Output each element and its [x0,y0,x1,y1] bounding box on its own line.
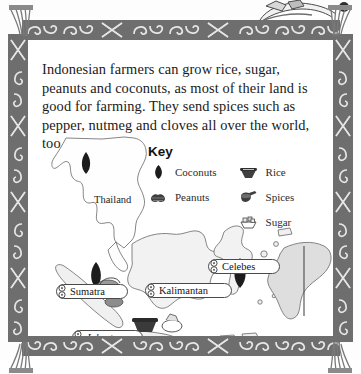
corner-tassel-top-right [321,4,355,44]
scroll-banner: Sumatra [56,284,128,299]
frame-band-bottom [22,336,340,356]
map-scroll-label-sumatra: Sumatra [56,284,128,299]
corner-tassel-bottom-left [6,334,40,374]
decorative-frame: Indonesian farmers can grow rice, sugar,… [8,20,353,356]
spices-mortar-icon [239,189,259,205]
key-item-coconuts: Coconuts [148,164,217,180]
key-item-rice: Rice [239,164,295,180]
coconut-icon [148,164,168,180]
scroll-banner: Celebes [208,259,280,274]
scroll-curl-icon [208,259,220,274]
key-label-rice: Rice [266,166,286,178]
scroll-label-text: Kalimantan [159,285,208,296]
content-area: Indonesian farmers can grow rice, sugar,… [28,40,333,336]
scroll-banner: Jakarta [72,330,143,336]
map-scroll-label-kalimantan: Kalimantan [145,283,232,298]
scroll-label-text: Sumatra [70,286,105,297]
key-column-left: Coconuts Peanuts [148,164,217,230]
scroll-label-text: Jakarta [86,332,118,336]
scroll-curl-icon [145,283,157,298]
key-title: Key [148,144,333,159]
frame-band-left [8,34,28,342]
key-item-spices: Spices [239,189,295,205]
scroll-curl-icon [72,330,84,336]
map-label-text: Thailand [94,194,131,205]
scroll-label-text: Celebes [222,261,255,272]
map-key: Key Coconuts [148,144,333,230]
key-item-peanuts: Peanuts [148,189,217,205]
key-column-right: Rice Spices [239,164,295,230]
key-label-peanuts: Peanuts [175,191,209,203]
key-item-sugar: Sugar [239,214,295,230]
frame-band-top [22,20,340,40]
rice-bowl-icon [239,164,259,180]
sugar-bowl-icon [239,214,259,230]
corner-tassel-top-left [6,4,40,44]
scroll-banner: Kalimantan [145,283,232,298]
map-scroll-label-celebes: Celebes [208,259,280,274]
key-label-spices: Spices [266,191,295,203]
map-label-thailand: Thailand [94,192,131,207]
peanut-icon [148,189,168,205]
key-label-coconuts: Coconuts [175,166,217,178]
map-scroll-label-jakarta: Jakarta [72,330,143,336]
frame-band-right [333,34,353,342]
corner-tassel-bottom-right [321,334,355,374]
scroll-curl-icon [56,284,68,299]
key-label-sugar: Sugar [266,216,292,228]
